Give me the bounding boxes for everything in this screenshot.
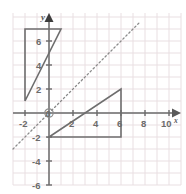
x-tick-label-4: 4 xyxy=(93,118,99,129)
origin-label: 0 xyxy=(46,109,51,119)
y-tick-label-neg4: -4 xyxy=(32,156,41,167)
x-tick-label-neg2: -2 xyxy=(19,118,27,129)
y-tick-label-4: 4 xyxy=(36,60,42,71)
x-tick-label-6: 6 xyxy=(117,118,122,129)
graph-figure: -2 2 4 6 8 10 6 4 2 -2 -4 -6 0 y x xyxy=(0,0,186,194)
x-tick-label-10: 10 xyxy=(161,118,172,129)
x-axis-label: x xyxy=(173,116,178,125)
y-tick-label-6: 6 xyxy=(36,36,41,47)
coordinate-plane: -2 2 4 6 8 10 6 4 2 -2 -4 -6 0 y x xyxy=(0,0,186,194)
y-tick-label-2: 2 xyxy=(36,84,41,95)
x-tick-label-8: 8 xyxy=(141,118,146,129)
y-tick-label-neg6: -6 xyxy=(32,180,40,191)
x-tick-label-2: 2 xyxy=(69,118,74,129)
y-tick-label-neg2: -2 xyxy=(32,132,40,143)
